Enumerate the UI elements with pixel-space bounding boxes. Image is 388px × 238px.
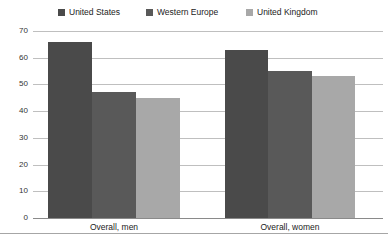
legend-label-united-kingdom: United Kingdom (257, 7, 317, 17)
legend-swatch-western-europe-icon (146, 9, 153, 16)
bar-united-states-overall-men (48, 42, 92, 218)
bar-western-europe-overall-men (92, 92, 136, 218)
y-tick-label: 10 (19, 187, 28, 195)
bottom-border (0, 233, 388, 234)
y-tick-label: 20 (19, 161, 28, 169)
bar-group-overall-women (225, 31, 355, 218)
legend-swatch-united-kingdom-icon (246, 9, 253, 16)
y-tick-label: 60 (19, 54, 28, 62)
legend-label-western-europe: Western Europe (157, 7, 218, 17)
bar-united-kingdom-overall-men (136, 98, 180, 218)
x-axis-label-overall-men: Overall, men (48, 222, 180, 232)
bar-chart: United States Western Europe United King… (0, 0, 388, 238)
y-tick-label: 30 (19, 134, 28, 142)
plot-area (33, 31, 383, 219)
x-axis-label-overall-women: Overall, women (225, 222, 355, 232)
y-tick-label: 0 (24, 214, 28, 222)
y-tick-label: 50 (19, 80, 28, 88)
legend-item-western-europe: Western Europe (146, 7, 218, 17)
legend-item-united-states: United States (58, 7, 120, 17)
legend-label-united-states: United States (69, 7, 120, 17)
bar-group-overall-men (48, 31, 180, 218)
bar-western-europe-overall-women (268, 71, 311, 218)
y-axis: 010203040506070 (0, 31, 28, 218)
bar-united-states-overall-women (225, 50, 268, 218)
y-tick-label: 40 (19, 107, 28, 115)
legend-item-united-kingdom: United Kingdom (246, 7, 317, 17)
y-tick-label: 70 (19, 27, 28, 35)
legend-swatch-united-states-icon (58, 9, 65, 16)
bar-united-kingdom-overall-women (312, 76, 355, 218)
